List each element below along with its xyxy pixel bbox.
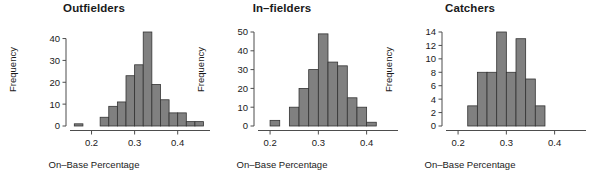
svg-text:40: 40: [237, 45, 248, 56]
plot-area: 024681012140.20.30.4: [412, 24, 590, 162]
svg-text:6: 6: [431, 80, 436, 91]
panel-catchers: Catchers Frequency 024681012140.20.30.4 …: [376, 0, 564, 178]
svg-text:0.2: 0.2: [85, 137, 98, 148]
svg-text:0.3: 0.3: [312, 137, 325, 148]
svg-text:12: 12: [425, 40, 436, 51]
y-axis-label: Frequency: [383, 23, 394, 117]
panel-title: In–fielders: [188, 2, 376, 14]
svg-text:30: 30: [49, 55, 60, 66]
svg-text:14: 14: [425, 26, 436, 37]
panel-outfielders: Outfielders Frequency 0102030400.20.30.4…: [0, 0, 188, 178]
svg-text:10: 10: [49, 99, 60, 110]
svg-text:0.4: 0.4: [360, 137, 373, 148]
svg-text:0.3: 0.3: [500, 137, 513, 148]
x-axis-label: On–Base Percentage: [0, 159, 188, 170]
svg-text:0: 0: [431, 120, 436, 131]
x-axis-label: On–Base Percentage: [188, 159, 376, 170]
svg-text:0.4: 0.4: [171, 137, 184, 148]
svg-text:0.4: 0.4: [548, 137, 561, 148]
svg-text:50: 50: [237, 26, 248, 37]
svg-text:0: 0: [55, 120, 60, 131]
svg-text:10: 10: [237, 102, 248, 113]
svg-text:0: 0: [243, 120, 248, 131]
svg-text:20: 20: [237, 83, 248, 94]
svg-text:30: 30: [237, 64, 248, 75]
y-axis-label: Frequency: [7, 23, 18, 117]
panel-title: Outfielders: [0, 2, 188, 14]
svg-text:0.2: 0.2: [263, 137, 276, 148]
svg-text:0.3: 0.3: [128, 137, 141, 148]
panel-infielders: In–fielders Frequency 010203040500.20.30…: [188, 0, 376, 178]
svg-text:40: 40: [49, 33, 60, 44]
svg-text:10: 10: [425, 53, 436, 64]
svg-text:0.2: 0.2: [451, 137, 464, 148]
svg-text:2: 2: [431, 107, 436, 118]
svg-text:20: 20: [49, 77, 60, 88]
svg-text:4: 4: [431, 94, 436, 105]
x-axis-label: On–Base Percentage: [376, 159, 564, 170]
y-axis-label: Frequency: [195, 23, 206, 117]
svg-text:8: 8: [431, 67, 436, 78]
panel-title: Catchers: [376, 2, 564, 14]
